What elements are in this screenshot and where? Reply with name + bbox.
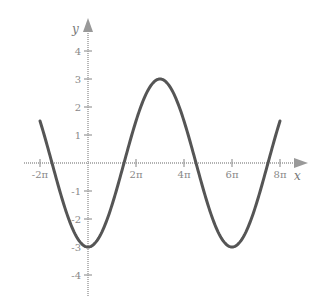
function-graph: -2π2π4π6π8π 4321-1-2-3-4 x y <box>0 0 321 304</box>
x-tick-label: 4π <box>178 169 191 180</box>
y-tick-label: 3 <box>75 74 81 85</box>
y-tick-label: 2 <box>75 102 81 113</box>
y-tick-label: -2 <box>71 214 81 225</box>
y-axis-label: y <box>71 22 79 36</box>
x-axis-arrow-icon <box>294 158 308 168</box>
y-tick-label: -1 <box>71 186 81 197</box>
x-tick-label: -2π <box>32 169 49 180</box>
y-axis-arrow-icon <box>83 18 93 32</box>
x-axis-label: x <box>294 169 301 183</box>
x-tick-label: 6π <box>226 169 239 180</box>
x-tick-label: 2π <box>130 169 143 180</box>
x-ticks: -2π2π4π6π8π <box>32 159 287 180</box>
y-tick-label: 1 <box>75 130 81 141</box>
y-tick-label: 4 <box>75 46 81 57</box>
y-tick-label: -4 <box>71 270 81 281</box>
x-tick-label: 8π <box>274 169 287 180</box>
